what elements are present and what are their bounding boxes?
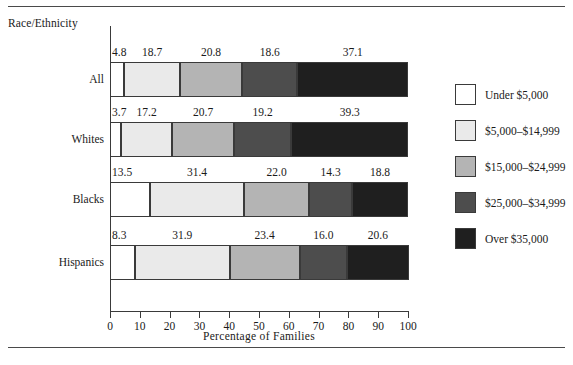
legend-label: Over $35,000	[485, 233, 548, 245]
category-label: All	[89, 73, 104, 85]
x-axis-tick	[110, 311, 111, 318]
bar-value-label: 31.4	[187, 166, 207, 178]
bar-value-label: 20.7	[193, 106, 213, 118]
legend-item[interactable]: Under $5,000	[455, 84, 548, 105]
bar-segment	[180, 62, 242, 97]
bar-value-label: 8.3	[112, 229, 126, 241]
bar-segment	[172, 122, 234, 157]
plot-area: 0102030405060708090100 4.818.720.818.637…	[110, 26, 408, 311]
bar-value-label: 13.5	[112, 166, 132, 178]
x-axis-tick	[289, 311, 290, 318]
bar-segment	[309, 182, 352, 217]
x-axis-tick	[348, 311, 349, 318]
bar-value-label: 37.1	[343, 46, 363, 58]
legend-label: $25,000–$34,999	[485, 197, 566, 209]
bar-segment	[234, 122, 291, 157]
bar-value-label: 18.7	[142, 46, 162, 58]
x-axis-tick	[170, 311, 171, 318]
x-axis-tick	[199, 311, 200, 318]
bar-segment	[121, 122, 172, 157]
legend-swatch	[455, 156, 476, 177]
bar-segment	[291, 122, 408, 157]
x-axis-tick	[259, 311, 260, 318]
bar-value-label: 18.6	[260, 46, 280, 58]
legend-item[interactable]: $5,000–$14,999	[455, 120, 560, 141]
bar-value-label: 4.8	[112, 46, 126, 58]
figure-container: Race/Ethnicity 0102030405060708090100 4.…	[0, 0, 573, 365]
bar-segment	[135, 245, 230, 280]
bar-value-label: 17.2	[137, 106, 157, 118]
bar-value-label: 20.6	[368, 229, 388, 241]
legend-label: $5,000–$14,999	[485, 125, 560, 137]
bar-segment	[230, 245, 300, 280]
bar-segment	[352, 182, 408, 217]
legend-swatch	[455, 84, 476, 105]
bar-segment	[124, 62, 180, 97]
legend-swatch	[455, 228, 476, 249]
bar-segment	[242, 62, 297, 97]
x-axis-tick	[378, 311, 379, 318]
bar-value-label: 18.8	[370, 166, 390, 178]
legend-item[interactable]: Over $35,000	[455, 228, 548, 249]
bar-segment	[110, 245, 135, 280]
bar-value-label: 22.0	[267, 166, 287, 178]
bar-value-label: 14.3	[321, 166, 341, 178]
bar-segment	[297, 62, 408, 97]
bar-segment	[347, 245, 408, 280]
bar-value-label: 3.7	[112, 106, 126, 118]
bar-value-label: 20.8	[201, 46, 221, 58]
bar-row: 4.818.720.818.637.1	[110, 62, 408, 97]
x-axis-tick	[319, 311, 320, 318]
bar-value-label: 23.4	[255, 229, 275, 241]
category-label: Blacks	[73, 193, 104, 205]
bar-segment	[110, 122, 121, 157]
legend-label: Under $5,000	[485, 89, 548, 101]
legend-swatch	[455, 120, 476, 141]
legend-label: $15,000–$24,999	[485, 161, 566, 173]
bar-segment	[110, 62, 124, 97]
bar-row: 3.717.220.719.239.3	[110, 122, 408, 157]
bar-value-label: 39.3	[340, 106, 360, 118]
legend-item[interactable]: $15,000–$24,999	[455, 156, 566, 177]
bar-segment	[244, 182, 310, 217]
legend-swatch	[455, 192, 476, 213]
top-divider-rule	[8, 6, 565, 7]
x-axis-tick	[408, 311, 409, 318]
y-axis-title: Race/Ethnicity	[8, 17, 78, 29]
bar-value-label: 19.2	[253, 106, 273, 118]
bar-value-label: 31.9	[172, 229, 192, 241]
category-label: Hispanics	[59, 256, 104, 268]
bar-value-label: 16.0	[313, 229, 333, 241]
bar-row: 13.531.422.014.318.8	[110, 182, 408, 217]
x-axis-title: Percentage of Families	[110, 330, 408, 342]
bar-segment	[300, 245, 348, 280]
legend-item[interactable]: $25,000–$34,999	[455, 192, 566, 213]
bottom-divider-rule	[8, 347, 565, 348]
bar-row: 8.331.923.416.020.6	[110, 245, 408, 280]
x-axis-tick	[140, 311, 141, 318]
bar-segment	[110, 182, 150, 217]
x-axis-tick	[229, 311, 230, 318]
bar-segment	[150, 182, 244, 217]
category-label: Whites	[71, 133, 104, 145]
